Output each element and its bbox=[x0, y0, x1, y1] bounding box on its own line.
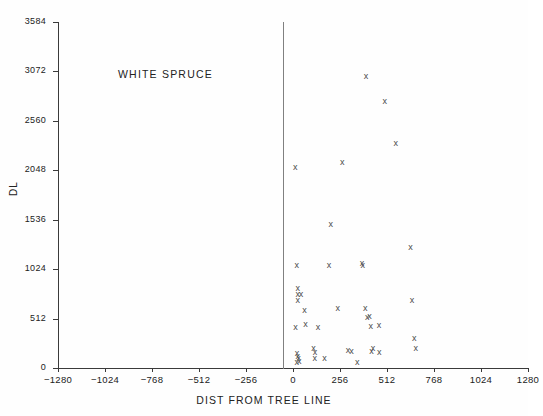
x-tick-mark bbox=[293, 368, 294, 372]
x-tick-mark bbox=[528, 368, 529, 372]
y-axis-title: DL bbox=[8, 181, 19, 196]
y-tick-label: 3584 bbox=[0, 16, 46, 26]
x-tick-mark bbox=[246, 368, 247, 372]
x-tick-mark bbox=[105, 368, 106, 372]
x-tick-label: 1280 bbox=[488, 374, 543, 385]
x-axis-title: DIST FROM TREE LINE bbox=[0, 394, 528, 406]
x-tick-mark bbox=[434, 368, 435, 372]
x-tick-mark bbox=[387, 368, 388, 372]
y-tick-label: 512 bbox=[0, 313, 46, 323]
y-tick-label: 0 bbox=[0, 362, 46, 372]
y-tick-label: 2560 bbox=[0, 115, 46, 125]
plot-annotation-label: WHITE SPRUCE bbox=[118, 68, 213, 80]
y-tick-label: 2048 bbox=[0, 164, 46, 174]
x-tick-mark bbox=[340, 368, 341, 372]
y-tick-label: 1024 bbox=[0, 263, 46, 273]
x-tick-mark bbox=[481, 368, 482, 372]
x-tick-mark bbox=[199, 368, 200, 372]
y-tick-label: 3072 bbox=[0, 65, 46, 75]
y-tick-label: 1536 bbox=[0, 214, 46, 224]
x-tick-mark bbox=[58, 368, 59, 372]
x-tick-mark bbox=[152, 368, 153, 372]
